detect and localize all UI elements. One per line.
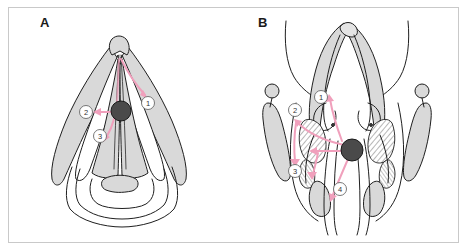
left-outer-pharyngeal-wall (285, 21, 314, 97)
arrow-lateral-descend-b (294, 123, 296, 161)
callout-4-b-label: 4 (338, 185, 342, 194)
left-thyroid-cartilage (263, 103, 291, 181)
callout-4-b: 4 (334, 183, 347, 196)
left-paraglottic-muscle (299, 119, 326, 163)
panel-a-letter: A (40, 15, 50, 30)
callout-3-b-label: 3 (293, 167, 297, 176)
panel-a-illustration: 1 2 3 (8, 7, 240, 243)
callout-2-a-label: 2 (84, 108, 88, 117)
callout-3-a: 3 (94, 130, 107, 143)
left-vocal-cord-tip (332, 124, 335, 127)
figure-root: 1 2 3 (0, 0, 467, 251)
callout-1-b-label: 1 (319, 93, 323, 102)
epiglottis-left-limb (309, 23, 348, 135)
left-superior-cornu-knob (265, 84, 279, 98)
right-outer-pharyngeal-wall (380, 21, 409, 97)
epiglottis-right-limb (346, 23, 385, 135)
callout-1-a: 1 (142, 97, 155, 110)
right-vocal-cord-tip (370, 124, 373, 127)
callout-3-a-label: 3 (98, 132, 102, 141)
callout-1-b: 1 (315, 91, 328, 104)
panel-b-letter: B (258, 15, 268, 30)
right-thyroid-cartilage (403, 103, 431, 181)
callout-2-a: 2 (80, 106, 93, 119)
lesion-marker-a (111, 101, 131, 121)
interarytenoid-region (102, 175, 139, 192)
callout-2-b: 2 (289, 104, 302, 117)
callout-2-b-label: 2 (293, 106, 297, 115)
left-inferior-cartilage-pad (309, 181, 330, 216)
lesion-marker-b (341, 139, 363, 161)
epiglottis-apex (109, 36, 129, 55)
right-superior-cornu-knob (415, 84, 429, 98)
callout-3-b: 3 (289, 165, 302, 178)
callout-1-a-label: 1 (146, 99, 150, 108)
panel-b-illustration: 1 2 3 4 (240, 7, 455, 243)
right-inferior-cartilage-pad (363, 181, 384, 216)
